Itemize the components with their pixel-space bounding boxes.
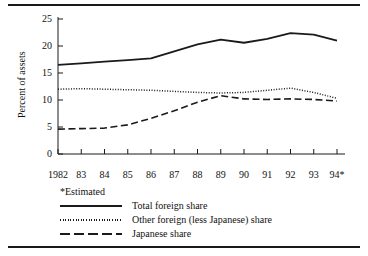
x-tick-label: 94* [320, 170, 354, 180]
series-line [58, 33, 337, 65]
y-tick-label: 20 [26, 41, 52, 51]
estimated-footnote: *Estimated [60, 186, 105, 197]
legend-label: Japanese share [132, 227, 191, 241]
legend-label: Other foreign (less Japanese) share [132, 213, 272, 227]
figure-container: Percent of assets *Estimated Total forei… [0, 0, 368, 256]
series-line [58, 96, 337, 129]
y-tick-label: 10 [26, 95, 52, 105]
legend-swatch-dotted [60, 219, 122, 221]
series-line [58, 88, 337, 98]
y-tick-label: 5 [26, 122, 52, 132]
axis-lines [58, 17, 345, 154]
legend-label: Total foreign share [132, 199, 207, 213]
y-tick-label: 15 [26, 68, 52, 78]
legend-swatch-solid [60, 205, 122, 207]
y-tick-label: 0 [26, 149, 52, 159]
legend-swatch-dashed [60, 233, 122, 235]
y-tick-label: 25 [26, 14, 52, 24]
